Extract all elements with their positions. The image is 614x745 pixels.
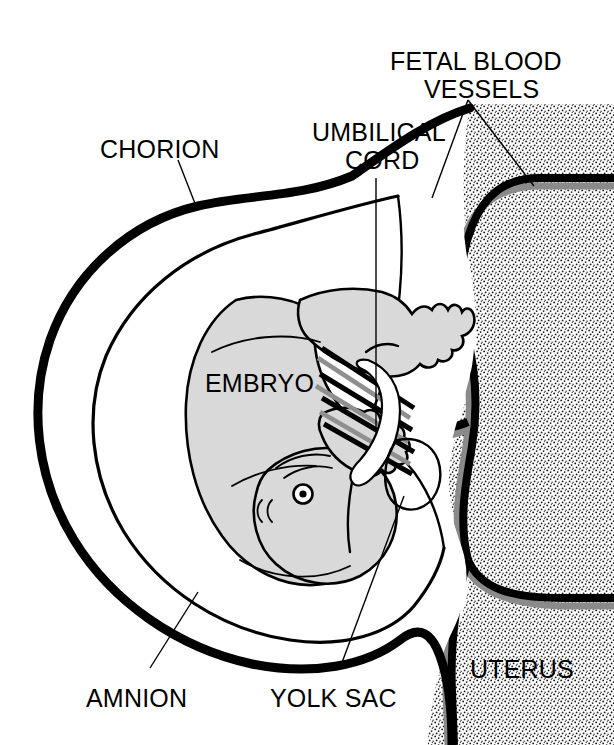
uterus-label: UTERUS — [470, 655, 574, 683]
diagram-canvas: EMBRYO CHORION UM — [0, 0, 614, 745]
umbilical-cord-label-line2: CORD — [345, 146, 419, 174]
yolk-sac-label: YOLK SAC — [270, 684, 397, 712]
fetal-blood-vessels-label-line1: FETAL BLOOD — [390, 47, 562, 75]
leader-amnion — [150, 592, 198, 668]
embryo — [186, 289, 475, 585]
leader-chorion — [178, 160, 196, 206]
fetal-blood-vessels-label-line2: VESSELS — [424, 75, 539, 103]
amnion-label: AMNION — [86, 684, 187, 712]
umbilical-cord-label-line1: UMBILICAL — [312, 118, 446, 146]
chorion-label: CHORION — [100, 135, 219, 163]
embryo-implantation-figure: EMBRYO CHORION UM — [0, 0, 614, 745]
embryo-label: EMBRYO — [205, 369, 314, 397]
